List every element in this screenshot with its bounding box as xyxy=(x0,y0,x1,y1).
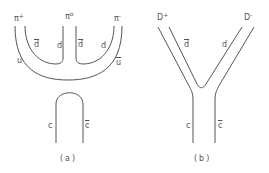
pi-minus-label: π- xyxy=(114,15,121,23)
caption-b: (b) xyxy=(194,155,211,163)
inner-dbar-d-line xyxy=(169,27,242,88)
cbar-quark-label-b: c xyxy=(218,122,222,130)
c-cbar-line xyxy=(56,93,83,143)
cbar-quark-label-a: c xyxy=(85,122,89,130)
pi-plus-label: π+ xyxy=(14,15,24,23)
pi-zero-label: πo xyxy=(65,13,74,21)
u-quark-label: u xyxy=(17,57,22,65)
d-left-label: d xyxy=(57,42,62,50)
d-plus-label: D+ xyxy=(157,14,168,22)
d-minus-label: D- xyxy=(244,14,252,22)
quark-line-diagram: π+ πo π- u d d d d u c c (a) D+ D- d d c… xyxy=(0,0,269,173)
caption-a: (a) xyxy=(60,155,77,163)
diagram-lines xyxy=(0,0,269,173)
d-right-label: d xyxy=(101,42,106,50)
c-quark-label-a: c xyxy=(48,122,52,130)
d-label-b: d xyxy=(222,41,227,49)
c-quark-label-b: c xyxy=(186,122,190,130)
dbar-left-label: d xyxy=(34,41,39,49)
ubar-quark-label: u xyxy=(116,59,121,67)
dbar-label-b: d xyxy=(184,41,189,49)
dbar-right-label: d xyxy=(78,41,83,49)
